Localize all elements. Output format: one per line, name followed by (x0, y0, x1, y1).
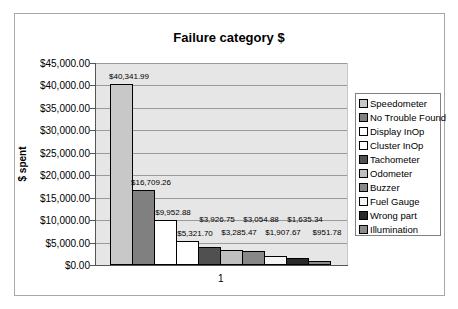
bar-wrong-part (286, 258, 309, 265)
y-tick-label: $35,000.00 (40, 102, 90, 113)
data-label: $40,341.99 (109, 72, 149, 81)
legend-item: Fuel Gauge (359, 194, 440, 208)
bar-buzzer (242, 251, 265, 265)
y-tick-mark (90, 130, 95, 131)
y-tick-mark (90, 198, 95, 199)
data-label: $1,907.67 (265, 228, 301, 237)
legend-label: Fuel Gauge (370, 196, 420, 207)
y-tick-mark (90, 175, 95, 176)
data-label: $3,285.47 (221, 228, 257, 237)
legend-swatch (359, 127, 368, 136)
legend-item: Display InOp (359, 124, 440, 138)
bar-fuel-gauge (264, 256, 287, 265)
bar-odometer (220, 250, 243, 265)
legend-item: Tachometer (359, 152, 440, 166)
legend-swatch (359, 155, 368, 164)
data-label: $951.78 (313, 228, 342, 237)
legend-item: No Trouble Found (359, 110, 440, 124)
y-tick-label: $40,000.00 (40, 80, 90, 91)
legend-swatch (359, 99, 368, 108)
y-tick-label: $0.00 (65, 260, 90, 271)
legend-swatch (359, 197, 368, 206)
bar-display-inop (154, 220, 177, 265)
y-tick-label: $30,000.00 (40, 125, 90, 136)
bar-tachometer (198, 247, 221, 265)
legend-swatch (359, 183, 368, 192)
legend-label: Illumination (370, 224, 418, 235)
y-tick-mark (90, 265, 95, 266)
y-tick-label: $15,000.00 (40, 192, 90, 203)
legend-label: Wrong part (370, 210, 417, 221)
y-tick-mark (90, 85, 95, 86)
legend-label: Odometer (370, 168, 412, 179)
y-tick-label: $25,000.00 (40, 147, 90, 158)
y-tick-mark (90, 153, 95, 154)
x-category-label: 1 (218, 273, 224, 284)
y-axis (95, 63, 96, 265)
legend-item: Cluster InOp (359, 138, 440, 152)
bar-illumination (308, 261, 331, 265)
x-axis (95, 265, 348, 266)
y-tick-mark (90, 243, 95, 244)
legend-item: Odometer (359, 166, 440, 180)
legend-item: Illumination (359, 222, 440, 236)
data-label: $5,321.70 (177, 229, 213, 238)
y-tick-label: $45,000.00 (40, 58, 90, 69)
legend-item: Speedometer (359, 96, 440, 110)
y-tick-label: $20,000.00 (40, 170, 90, 181)
data-label: $3,054.88 (243, 215, 279, 224)
legend-swatch (359, 211, 368, 220)
legend-swatch (359, 169, 368, 178)
bar-cluster-inop (176, 241, 199, 265)
legend-label: No Trouble Found (370, 112, 446, 123)
y-tick-label: $10,000.00 (40, 215, 90, 226)
legend-swatch (359, 113, 368, 122)
legend-label: Buzzer (370, 182, 400, 193)
y-tick-mark (90, 108, 95, 109)
data-label: $3,926.75 (199, 215, 235, 224)
legend-label: Tachometer (370, 154, 420, 165)
data-label: $9,952.88 (155, 208, 191, 217)
y-tick-mark (90, 63, 95, 64)
legend-swatch (359, 225, 368, 234)
legend-item: Buzzer (359, 180, 440, 194)
legend-label: Display InOp (370, 126, 424, 137)
legend-label: Cluster InOp (370, 140, 423, 151)
y-tick-label: $5,000.00 (46, 237, 91, 248)
legend-label: Speedometer (370, 98, 427, 109)
legend-item: Wrong part (359, 208, 440, 222)
data-label: $1,635.34 (287, 215, 323, 224)
legend: SpeedometerNo Trouble FoundDisplay InOpC… (355, 93, 441, 236)
bar-no-trouble-found (132, 190, 155, 265)
legend-swatch (359, 141, 368, 150)
bar-speedometer (110, 84, 133, 265)
y-tick-mark (90, 220, 95, 221)
gridline (95, 63, 347, 64)
y-axis-label: $ spent (17, 146, 28, 181)
data-label: $16,709.26 (131, 178, 171, 187)
chart-title: Failure category $ (0, 30, 458, 45)
